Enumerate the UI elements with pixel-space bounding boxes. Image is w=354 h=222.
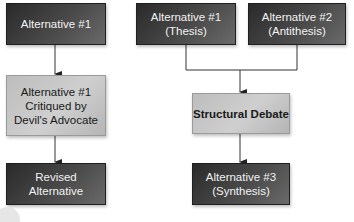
node-alternative-1: Alternative #1 bbox=[6, 3, 106, 45]
node-antithesis: Alternative #2 (Antithesis) bbox=[248, 3, 346, 45]
node-structural-debate: Structural Debate bbox=[192, 93, 290, 134]
merge-line bbox=[186, 45, 297, 70]
node-synthesis: Alternative #3 (Synthesis) bbox=[192, 163, 290, 205]
node-devils-advocate-critique: Alternative #1 Critiqued by Devil's Advo… bbox=[6, 75, 106, 136]
node-thesis: Alternative #1 (Thesis) bbox=[136, 3, 236, 45]
node-revised-alternative: Revised Alternative bbox=[6, 163, 106, 205]
